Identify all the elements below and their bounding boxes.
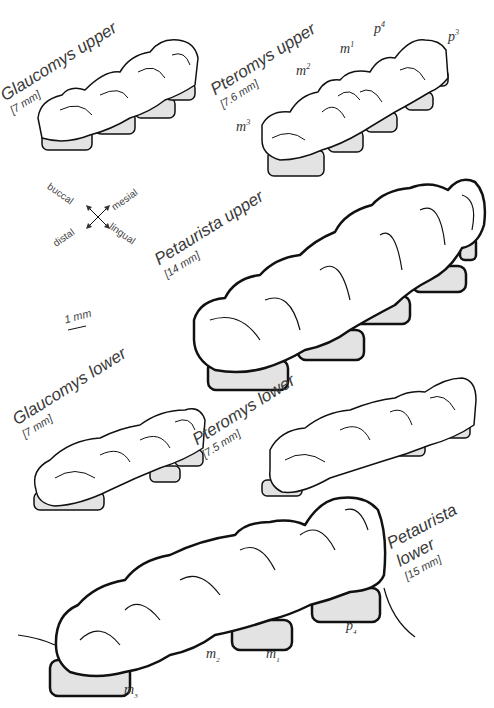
tooth-label-m3-upper: m3 [236,118,250,135]
glaucomys-lower-teeth [34,409,205,510]
tooth-label-p4-lower: p4 [346,618,357,636]
scale-bar-line [68,326,86,330]
tooth-label-m1-upper: m1 [340,40,354,57]
tooth-label-p3-upper: p3 [448,28,459,45]
orientation-cross [86,205,110,229]
tooth-label-m2-upper: m2 [296,62,310,79]
tooth-label-m3-lower: m3 [124,682,138,700]
tooth-illustrations [0,0,494,708]
petaurista-lower-teeth [18,498,415,697]
tooth-label-m1-lower: m1 [266,646,280,664]
tooth-label-p4-upper: p4 [374,20,385,37]
tooth-label-m2-lower: m2 [206,646,220,664]
